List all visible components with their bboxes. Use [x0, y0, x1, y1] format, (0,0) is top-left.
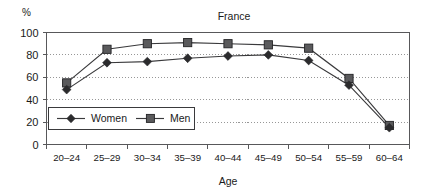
- data-point-women: [304, 56, 313, 65]
- y-tick-label: 100: [20, 27, 38, 39]
- x-tick-label: 25–29: [94, 152, 121, 163]
- y-axis-unit-label: %: [22, 7, 31, 18]
- x-axis: 20–2425–2930–3435–3940–4445–4950–5455–59…: [47, 145, 410, 163]
- data-point-men: [224, 40, 232, 48]
- x-tick-label: 50–54: [295, 152, 323, 163]
- x-tick-label: 35–39: [174, 152, 201, 163]
- chart-container: % France 020406080100 20–2425–2930–3435–…: [0, 0, 428, 193]
- x-tick-label: 60–64: [376, 152, 404, 163]
- legend-label-men: Men: [170, 112, 191, 124]
- y-tick-label: 80: [26, 49, 38, 61]
- x-tick-label: 45–49: [255, 152, 282, 163]
- data-point-women: [264, 51, 273, 60]
- chart-title: France: [218, 10, 251, 22]
- square-icon: [146, 114, 154, 122]
- data-point-women: [103, 58, 112, 67]
- y-tick-label: 60: [26, 71, 38, 83]
- data-point-women: [143, 57, 152, 66]
- x-axis-title: Age: [219, 175, 238, 187]
- line-chart: % France 020406080100 20–2425–2930–3435–…: [0, 0, 428, 193]
- legend: Women Men: [49, 108, 195, 130]
- legend-label-women: Women: [91, 112, 127, 124]
- data-point-men: [103, 45, 111, 53]
- x-tick-label: 20–24: [53, 152, 81, 163]
- data-point-women: [224, 52, 233, 61]
- x-tick-label: 55–59: [336, 152, 363, 163]
- y-tick-label: 0: [32, 139, 38, 151]
- y-tick-label: 40: [26, 94, 38, 106]
- data-point-men: [264, 41, 272, 49]
- x-tick-label: 40–44: [215, 152, 243, 163]
- data-point-men: [305, 44, 313, 52]
- data-point-men: [143, 40, 151, 48]
- y-axis: 020406080100: [20, 27, 46, 151]
- y-tick-label: 20: [26, 116, 38, 128]
- data-point-men: [184, 38, 192, 46]
- x-tick-label: 30–34: [134, 152, 162, 163]
